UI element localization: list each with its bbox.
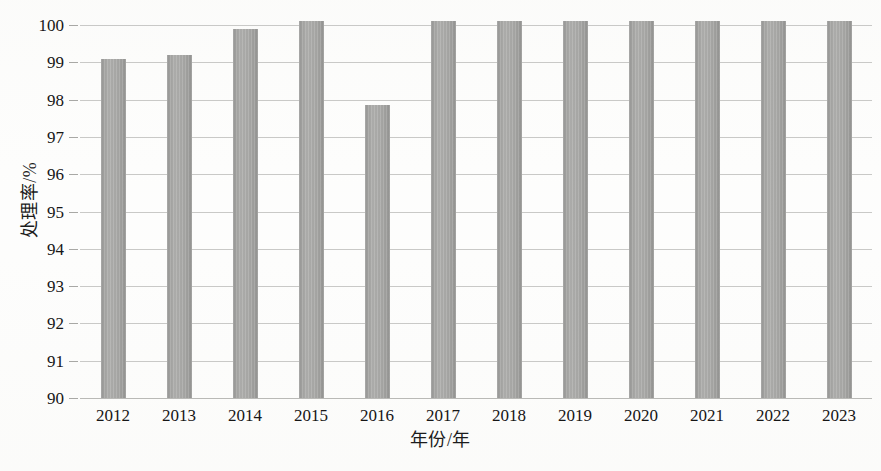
plot-area: 1009998979695949392919020122013201420152…	[80, 25, 872, 398]
y-axis-tick-label: 100	[39, 17, 65, 34]
bar-2015	[299, 21, 324, 398]
x-axis-tick-label: 2012	[96, 407, 130, 424]
y-axis-tick-mark	[69, 100, 78, 101]
bar-2018	[497, 21, 522, 398]
x-axis-tick-label: 2015	[294, 407, 328, 424]
y-axis-tick-label: 99	[47, 54, 64, 71]
y-axis-tick-mark	[69, 249, 78, 250]
x-axis-tick-label: 2019	[558, 407, 592, 424]
gridline	[80, 62, 872, 63]
gridline	[80, 25, 872, 26]
bar-2019	[563, 21, 588, 398]
bar-2014	[233, 29, 258, 398]
x-axis-baseline	[80, 398, 872, 399]
gridline	[80, 286, 872, 287]
x-axis-tick-label: 2017	[426, 407, 460, 424]
gridline	[80, 212, 872, 213]
y-axis-tick-label: 95	[47, 203, 64, 220]
y-axis-tick-mark	[69, 137, 78, 138]
y-axis-tick-mark	[69, 286, 78, 287]
x-axis-tick-label: 2016	[360, 407, 394, 424]
x-axis-tick-label: 2020	[624, 407, 658, 424]
gridline	[80, 100, 872, 101]
y-axis-tick-mark	[69, 361, 78, 362]
x-axis-tick-label: 2022	[756, 407, 790, 424]
bar-2017	[431, 21, 456, 398]
y-axis-tick-label: 90	[47, 390, 64, 407]
x-axis-tick-label: 2018	[492, 407, 526, 424]
bar-2016	[365, 105, 390, 398]
y-axis-tick-label: 98	[47, 91, 64, 108]
bar-2023	[827, 21, 852, 398]
y-axis-tick-mark	[69, 398, 78, 399]
y-axis-title-label: 处理率/%	[15, 162, 41, 239]
x-axis-tick-label: 2021	[690, 407, 724, 424]
bar-2021	[695, 21, 720, 398]
x-axis-tick-label: 2014	[228, 407, 262, 424]
gridline	[80, 249, 872, 250]
x-axis-title-label: 年份/年	[410, 430, 471, 450]
y-axis-tick-label: 96	[47, 166, 64, 183]
gridline	[80, 174, 872, 175]
gridline	[80, 323, 872, 324]
bar-2020	[629, 21, 654, 398]
y-axis-tick-mark	[69, 174, 78, 175]
y-axis-tick-label: 97	[47, 128, 64, 145]
y-axis-tick-mark	[69, 62, 78, 63]
gridline	[80, 137, 872, 138]
x-axis-tick-label: 2023	[822, 407, 856, 424]
y-axis-tick-mark	[69, 212, 78, 213]
x-axis-tick-label: 2013	[162, 407, 196, 424]
x-axis-title: 年份/年	[0, 425, 881, 451]
bar-2012	[101, 59, 126, 398]
y-axis-tick-label: 94	[47, 240, 64, 257]
y-axis-tick-mark	[69, 323, 78, 324]
bar-chart-figure: 处理率/% 1009998979695949392919020122013201…	[0, 0, 881, 471]
y-axis-title: 处理率/%	[8, 0, 48, 400]
y-axis-tick-label: 91	[47, 352, 64, 369]
y-axis-tick-label: 92	[47, 315, 64, 332]
bar-2013	[167, 55, 192, 398]
bar-2022	[761, 21, 786, 398]
y-axis-tick-mark	[69, 25, 78, 26]
y-axis-tick-label: 93	[47, 278, 64, 295]
gridline	[80, 361, 872, 362]
